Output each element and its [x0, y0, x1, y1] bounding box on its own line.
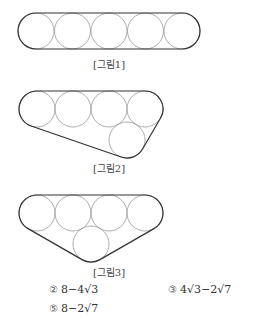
fig3-circle-3 — [91, 195, 127, 231]
fig3-circle-2 — [55, 195, 91, 231]
fig1-circle-3 — [91, 13, 127, 49]
choice-3-expr: 4√3−2√7 — [180, 283, 231, 296]
fig3-circle-5 — [73, 226, 109, 262]
figure-3-caption: [그림3] — [69, 264, 149, 279]
choice-2-expr: 8−4√3 — [61, 283, 98, 296]
figure-1-caption: [그림1] — [69, 56, 149, 71]
choice-3-number: ③ — [168, 284, 177, 295]
choice-5-number: ⑤ — [49, 303, 58, 314]
choice-2-number: ② — [49, 284, 58, 295]
figure-1 — [18, 13, 200, 49]
choice-5[interactable]: ⑤8−2√7 — [49, 302, 98, 315]
choice-2[interactable]: ②8−4√3 — [49, 283, 98, 296]
fig1-circle-4 — [128, 13, 164, 49]
fig3-belt — [19, 195, 163, 262]
fig1-belt — [18, 13, 200, 49]
figure-2-caption: [그림2] — [69, 160, 149, 175]
fig2-belt — [19, 91, 163, 158]
choice-5-expr: 8−2√7 — [61, 302, 98, 315]
fig1-circle-2 — [55, 13, 91, 49]
fig2-circle-2 — [55, 91, 91, 127]
figure-2 — [19, 91, 163, 158]
fig2-circle-3 — [91, 91, 127, 127]
choice-3[interactable]: ③4√3−2√7 — [168, 283, 231, 296]
figure-3 — [19, 195, 163, 262]
